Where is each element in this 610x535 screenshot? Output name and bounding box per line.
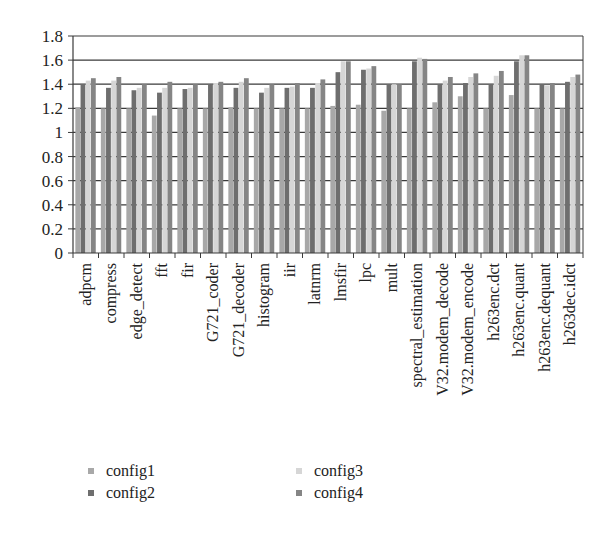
bar-config1-histogram — [254, 108, 259, 253]
bar-config3-lpc — [366, 69, 371, 253]
x-category-label: mult — [383, 262, 400, 292]
bar-config4-h263enc.quant — [524, 55, 529, 253]
bar-config1-iir — [279, 108, 284, 253]
bar-config3-V32.modem_decode — [443, 81, 448, 253]
bar-config2-lpc — [361, 70, 366, 253]
bar-config4-histogram — [269, 84, 274, 253]
bar-config4-spectral_estimation — [422, 59, 427, 253]
bar-config3-histogram — [264, 88, 269, 253]
x-category-label: h263enc.dequant — [536, 262, 554, 371]
bar-config3-V32.modem_encode — [468, 77, 473, 253]
bar-config4-lmsfir — [346, 61, 351, 253]
bar-config1-V32.modem_decode — [432, 102, 437, 253]
bar-config1-lmsfir — [330, 106, 335, 253]
y-tick-labels: 00.20.40.60.811.21.41.61.8 — [42, 27, 64, 263]
x-category-label: fft — [153, 262, 170, 277]
x-category-label: h263dec.idct — [561, 262, 578, 345]
bar-config2-compress — [106, 88, 111, 253]
bar-config3-mult — [392, 84, 397, 253]
bar-config2-iir — [285, 88, 290, 253]
x-category-label: lpc — [357, 263, 375, 283]
bar-config2-h263enc.dequant — [540, 84, 545, 253]
bar-config3-G721_coder — [213, 83, 218, 253]
y-tick-label: 0.6 — [42, 172, 63, 191]
bar-config4-latnrm — [320, 79, 325, 253]
x-category-label: adpcm — [77, 262, 95, 305]
bar-config2-V32.modem_encode — [463, 83, 468, 253]
legend-label: config2 — [106, 484, 155, 502]
bar-config1-h263enc.dequant — [534, 108, 539, 253]
legend-item-config3: config3 — [296, 462, 363, 480]
bar-config4-V32.modem_encode — [473, 73, 478, 253]
bar-config1-h263enc.dct — [483, 108, 488, 253]
legend: config1 config2 config3 config4 — [88, 462, 508, 522]
bar-config1-spectral_estimation — [407, 108, 412, 253]
bar-config1-compress — [101, 108, 106, 253]
bar-chart: 00.20.40.60.811.21.41.61.8 adpcmcompress… — [0, 0, 610, 460]
bar-config4-iir — [295, 83, 300, 253]
y-tick-label: 0.2 — [42, 220, 63, 239]
x-category-label: histogram — [255, 262, 273, 327]
bar-config1-mult — [381, 111, 386, 253]
bar-config1-fir — [177, 108, 182, 253]
bar-config2-G721_decoder — [234, 88, 239, 253]
bar-config4-G721_coder — [218, 82, 223, 253]
bar-config4-fir — [193, 84, 198, 253]
y-tick-label: 0.8 — [42, 148, 63, 167]
bar-config3-h263enc.dequant — [545, 85, 550, 253]
bar-config4-fft — [167, 82, 172, 253]
legend-label: config1 — [106, 462, 155, 480]
bar-config1-G721_decoder — [228, 107, 233, 253]
bar-config3-edge_detect — [137, 88, 142, 253]
bars — [75, 55, 580, 253]
bar-config2-latnrm — [310, 88, 315, 253]
bar-config2-lmsfir — [336, 72, 341, 253]
x-category-label: spectral_estimation — [408, 263, 426, 387]
bar-config2-h263dec.idct — [565, 82, 570, 253]
x-category-label: V32.modem_decode — [434, 263, 451, 396]
x-category-label: fir — [179, 262, 196, 278]
bar-config2-spectral_estimation — [412, 61, 417, 253]
y-tick-label: 0 — [55, 244, 64, 263]
bar-config4-h263enc.dct — [499, 71, 504, 253]
bar-config3-h263enc.quant — [519, 55, 524, 253]
bar-config3-iir — [290, 87, 295, 253]
bar-config4-h263enc.dequant — [550, 83, 555, 253]
bar-config1-latnrm — [305, 108, 310, 253]
legend-swatch-config4 — [296, 490, 302, 496]
y-tick-label: 1.6 — [42, 51, 63, 70]
bar-config4-V32.modem_decode — [448, 77, 453, 253]
legend-swatch-config3 — [296, 468, 302, 474]
legend-swatch-config1 — [88, 468, 94, 474]
bar-config1-edge_detect — [126, 108, 131, 253]
legend-swatch-config2 — [88, 490, 94, 496]
bar-config1-h263enc.quant — [509, 95, 514, 253]
bar-config2-h263enc.dct — [489, 84, 494, 253]
y-tick-label: 1 — [55, 123, 64, 142]
bar-config2-adpcm — [81, 84, 86, 253]
x-category-label: G721_coder — [204, 262, 221, 342]
x-category-label: h263enc.dct — [485, 262, 502, 340]
bar-config4-adpcm — [91, 78, 96, 253]
gridlines — [73, 36, 583, 229]
bar-config3-compress — [111, 81, 116, 253]
bar-config1-V32.modem_encode — [458, 96, 463, 253]
bar-config3-spectral_estimation — [417, 58, 422, 253]
bar-config4-mult — [397, 84, 402, 253]
bar-config1-h263dec.idct — [560, 108, 565, 253]
bar-config3-h263dec.idct — [570, 77, 575, 253]
x-category-labels: adpcmcompressedge_detectfftfirG721_coder… — [77, 262, 579, 396]
bar-config4-compress — [116, 77, 121, 253]
x-category-label: V32.modem_encode — [459, 263, 476, 396]
bar-config3-adpcm — [86, 81, 91, 253]
bar-config4-lpc — [371, 66, 376, 253]
bar-config4-h263dec.idct — [575, 75, 580, 253]
bar-config2-V32.modem_decode — [438, 84, 443, 253]
bar-config2-histogram — [259, 93, 264, 253]
bar-config1-G721_coder — [203, 108, 208, 253]
bar-config2-h263enc.quant — [514, 61, 519, 253]
y-tick-label: 0.4 — [42, 196, 64, 215]
legend-item-config4: config4 — [296, 484, 363, 502]
bar-config1-adpcm — [75, 107, 80, 253]
bar-config1-fft — [152, 116, 157, 253]
